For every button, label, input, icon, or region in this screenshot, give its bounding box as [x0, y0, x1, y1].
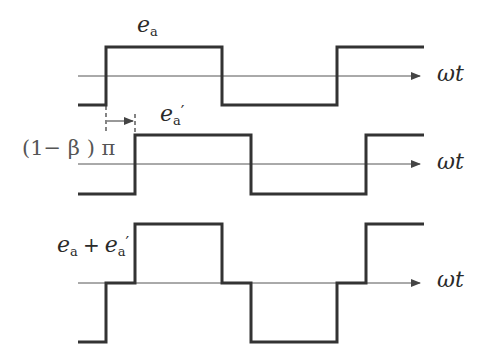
axis-label-middle: ωt — [437, 149, 464, 174]
axis-label-bottom: ωt — [437, 267, 464, 292]
axis-label-top: ωt — [437, 61, 464, 86]
label-ea-plus-ea-prime: ea + ea′ — [57, 232, 129, 259]
label-ea-prime: ea′ — [160, 101, 184, 128]
waveform-diagram — [0, 0, 492, 360]
label-ea: ea — [137, 12, 158, 39]
label-phase-shift: (1− β ) π — [22, 136, 115, 160]
